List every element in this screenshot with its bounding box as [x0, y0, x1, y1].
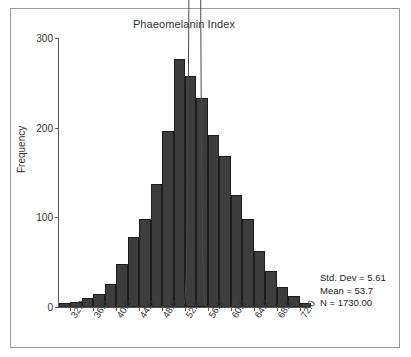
y-axis-tick-mark — [55, 217, 59, 218]
y-axis-tick-label: 300 — [36, 33, 53, 44]
normal-curve — [59, 38, 311, 307]
statistics-annotation: Std. Dev = 5.61 Mean = 53.7 N = 1730.00 — [320, 272, 386, 310]
mean-text: Mean = 53.7 — [320, 285, 386, 298]
n-text: N = 1730.00 — [320, 297, 386, 310]
y-axis-tick-mark — [55, 38, 59, 39]
y-axis-label: Frequency — [16, 126, 27, 173]
chart-title: Phaeomelanin Index — [58, 18, 310, 30]
histogram-figure: Phaeomelanin Index Frequency 0100200300 … — [0, 0, 411, 357]
y-axis-tick-mark — [55, 307, 59, 308]
std-dev-text: Std. Dev = 5.61 — [320, 272, 386, 285]
plot-area: 0100200300 32.036.040.044.048.052.056.06… — [58, 38, 311, 308]
plot-inner: 0100200300 32.036.040.044.048.052.056.06… — [59, 38, 311, 307]
y-axis-tick-label: 0 — [47, 302, 53, 313]
y-axis-tick-mark — [55, 128, 59, 129]
y-axis-tick-label: 200 — [36, 122, 53, 133]
y-axis-tick-label: 100 — [36, 212, 53, 223]
